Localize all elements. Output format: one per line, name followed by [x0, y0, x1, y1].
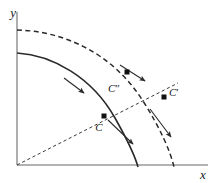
inner-curve-solid: [17, 53, 138, 167]
tangent-arrow-inner-upper-icon: [64, 78, 84, 93]
figure-container: y x C C′ C″: [0, 0, 221, 183]
point-label-c: C: [95, 121, 103, 133]
tangent-arrow-inner-at-c-icon: [108, 120, 133, 144]
outer-curve-dashed: [17, 30, 174, 167]
point-label-c-double-prime-group: C″: [108, 82, 120, 94]
diagram-canvas: y x C C′ C″: [0, 0, 221, 183]
x-axis-label: x: [199, 167, 206, 182]
prime-mark-single: ′: [176, 86, 178, 98]
point-marker-c-double-prime: [125, 70, 130, 75]
point-marker-c: [102, 114, 107, 119]
outer-curve-group: [17, 30, 174, 167]
prime-mark-double: ″: [115, 82, 120, 94]
tangent-arrow-outer-at-cpp-icon: [120, 65, 145, 81]
point-label-c-prime-group: C′: [169, 86, 179, 98]
point-marker-c-prime: [162, 95, 167, 100]
inner-curve-group: [17, 53, 138, 167]
y-axis-label: y: [8, 5, 16, 20]
